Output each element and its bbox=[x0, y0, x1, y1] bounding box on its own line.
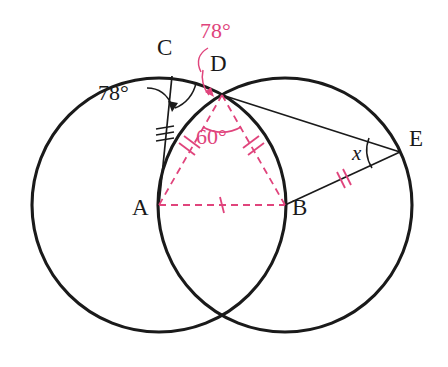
point-label-c: C bbox=[157, 36, 172, 59]
point-label-a: A bbox=[132, 196, 149, 219]
angle-arc-at-c bbox=[168, 83, 196, 112]
point-label-e: E bbox=[409, 127, 423, 150]
angle-label-at-d-cd: 78° bbox=[200, 20, 231, 42]
geometry-diagram-page: A B C D E 78° 78° 60° x bbox=[0, 0, 448, 367]
angle-label-adb: 60° bbox=[196, 126, 227, 148]
point-label-d: D bbox=[210, 52, 227, 75]
angle-label-x-at-e: x bbox=[352, 143, 361, 164]
angle-label-at-c: 78° bbox=[98, 82, 129, 104]
angle-leader-c bbox=[147, 88, 172, 106]
tick-ca bbox=[156, 126, 174, 141]
angle-leader-d bbox=[198, 48, 208, 72]
point-label-b: B bbox=[292, 196, 307, 219]
